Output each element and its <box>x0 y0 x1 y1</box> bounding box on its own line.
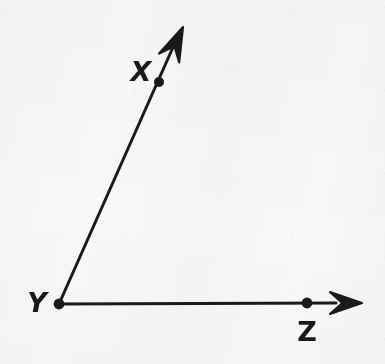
point-label-z: Z <box>297 318 317 345</box>
point-dot-y <box>54 299 65 310</box>
point-dot-x <box>154 77 164 87</box>
ray-yz-line <box>59 303 336 304</box>
point-label-y: Y <box>27 289 47 316</box>
point-dot-z <box>302 298 313 309</box>
ray-yx-arrowhead-icon <box>159 27 183 63</box>
point-label-x: X <box>131 58 152 85</box>
ray-yx-line <box>59 36 178 304</box>
geometry-canvas <box>0 0 385 364</box>
angle-diagram-figure: X Y Z <box>0 0 385 364</box>
